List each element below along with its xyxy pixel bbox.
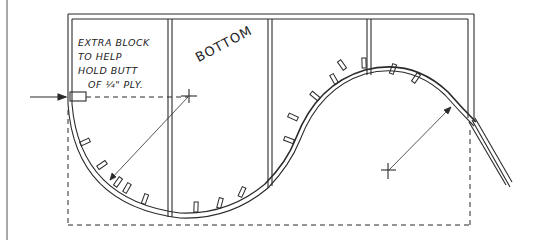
divider-3: [367, 19, 371, 75]
note-line-1: EXTRA BLOCK: [78, 36, 150, 50]
note-line-2: TO HELP: [78, 50, 150, 64]
ribs-left-arc: [80, 138, 246, 212]
note-line-4: OF ¼" PLY.: [78, 78, 150, 92]
radius-line-left: [110, 97, 188, 180]
radius-line-right: [389, 107, 451, 170]
pointer-arrow: [30, 94, 66, 100]
block-note: EXTRA BLOCK TO HELP HOLD BUTT OF ¼" PLY.: [78, 36, 150, 92]
s-curve-plywood: [265, 67, 476, 188]
ramp-extension: [469, 118, 512, 187]
note-line-3: HOLD BUTT: [78, 64, 150, 78]
center-mark-left: [181, 89, 197, 103]
frame-left-rail: [68, 14, 72, 104]
frame-right-rail: [468, 14, 474, 122]
divider-2: [268, 19, 272, 188]
frame-top-rail: [68, 14, 474, 19]
